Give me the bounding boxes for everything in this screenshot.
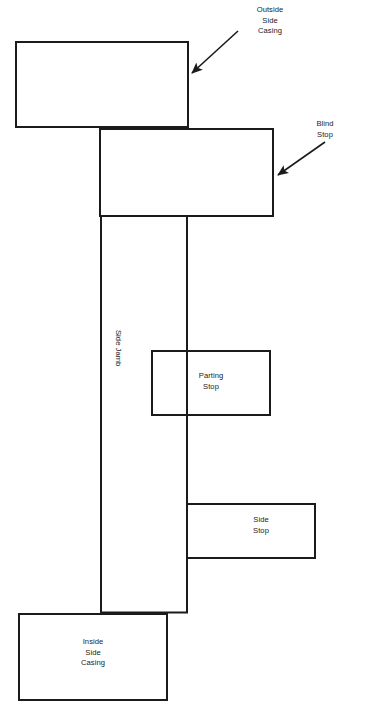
callout-label-outside-side-casing: Outside Side Casing [240, 5, 300, 37]
part-outline-outside-side-casing [16, 42, 188, 127]
part-outline-blind-stop [100, 129, 273, 216]
callout-label-blind-stop: Blind Stop [305, 119, 345, 140]
part-label-side-jamb: Side Jamb [114, 330, 123, 366]
part-label-parting-stop: Parting Stop [181, 371, 241, 392]
part-label-side-stop: Side Stop [237, 515, 285, 536]
diagram-linework [0, 0, 366, 714]
window-jamb-diagram: Outside Side Casing Blind Stop Side Jamb… [0, 0, 366, 714]
callout-arrow-outside-side-casing [192, 31, 238, 73]
part-label-inside-side-casing: Inside Side Casing [64, 637, 122, 669]
callout-arrow-blind-stop [278, 142, 325, 175]
